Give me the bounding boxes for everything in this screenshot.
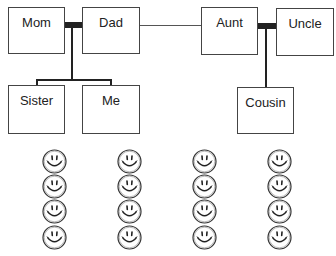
smiley-face-icon: [117, 225, 142, 250]
person-label-uncle: Uncle: [288, 16, 321, 31]
smiley-face-icon: [192, 149, 217, 174]
person-box-me: Me: [82, 85, 140, 134]
couple-bar-mom-dad: [64, 22, 82, 28]
sibling-line-dad-aunt: [139, 25, 201, 26]
smiley-face-icon: [267, 199, 292, 224]
smiley-face-icon: [117, 149, 142, 174]
smiley-face-icon: [267, 225, 292, 250]
children-bracket: [36, 79, 112, 81]
person-label-dad: Dad: [99, 15, 123, 30]
smiley-face-icon: [42, 199, 67, 224]
person-label-me: Me: [102, 93, 120, 108]
person-box-dad: Dad: [82, 7, 140, 54]
smiley-face-icon: [42, 225, 67, 250]
descent-line-aunt-uncle: [265, 26, 267, 88]
person-label-cousin: Cousin: [245, 95, 285, 110]
smiley-face-icon: [267, 149, 292, 174]
person-box-aunt: Aunt: [201, 7, 258, 55]
smiley-face-icon: [192, 174, 217, 199]
person-label-sister: Sister: [20, 93, 53, 108]
smiley-face-icon: [117, 174, 142, 199]
person-label-aunt: Aunt: [216, 15, 243, 30]
smiley-face-icon: [42, 149, 67, 174]
smiley-face-icon: [117, 199, 142, 224]
person-box-uncle: Uncle: [276, 8, 334, 56]
smiley-face-icon: [192, 199, 217, 224]
person-box-sister: Sister: [8, 85, 65, 134]
smiley-face-icon: [192, 225, 217, 250]
person-box-cousin: Cousin: [237, 87, 294, 134]
smiley-face-icon: [42, 174, 67, 199]
descent-line-mom-dad: [71, 25, 73, 80]
smiley-face-icon: [267, 174, 292, 199]
person-box-mom: Mom: [8, 7, 65, 54]
person-label-mom: Mom: [22, 15, 51, 30]
